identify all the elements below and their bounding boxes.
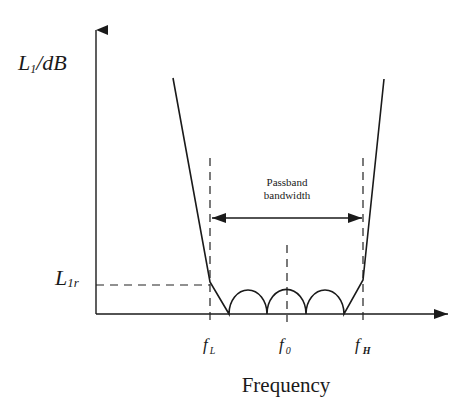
f0-label: f0 bbox=[279, 335, 291, 356]
fh-label: fH bbox=[355, 335, 372, 356]
x-axis-label: Frequency bbox=[242, 373, 331, 397]
fl-label: fL bbox=[203, 335, 216, 356]
passband-label-line2: bandwidth bbox=[264, 189, 311, 201]
passband-label-line1: Passband bbox=[267, 176, 308, 188]
passband-diagram: Passband bandwidth L1/dB L1r fL f0 fH Fr… bbox=[0, 0, 473, 419]
y-axis-label: L1/dB bbox=[17, 50, 67, 76]
l1r-label: L1r bbox=[54, 265, 80, 290]
